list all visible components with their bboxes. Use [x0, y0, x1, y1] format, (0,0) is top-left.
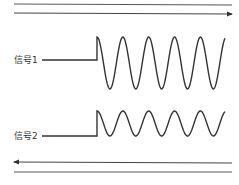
signal-2-waveform [42, 111, 225, 136]
signal-1-waveform [42, 37, 225, 89]
top-rail-arrow-right-icon [14, 13, 232, 14]
top-rail-line [14, 4, 232, 5]
signal-1-label: 信号1 [14, 55, 38, 65]
bottom-rail-arrow-left-icon [14, 162, 232, 163]
signal-2-label: 信号2 [14, 131, 38, 141]
waveform-diagram [0, 0, 239, 185]
